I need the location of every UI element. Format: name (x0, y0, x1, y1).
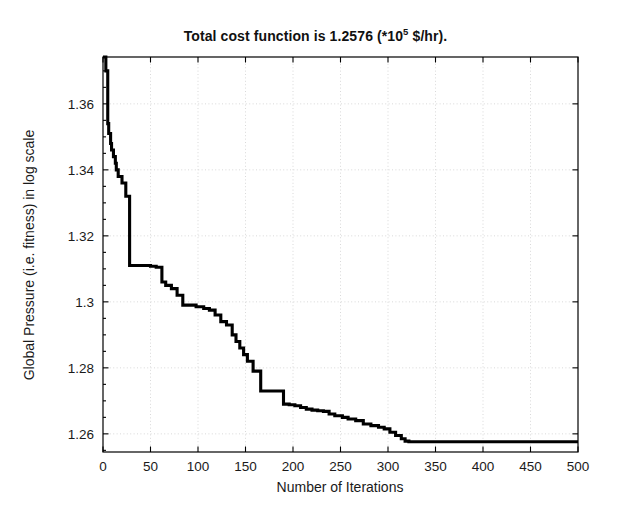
y-tick-label: 1.36 (68, 97, 94, 112)
x-tick-label: 500 (567, 459, 590, 474)
x-tick-label: 250 (329, 459, 352, 474)
y-axis-title: Global Pressure (i.e. fitness) in log sc… (21, 130, 37, 381)
x-tick-label: 150 (234, 459, 257, 474)
x-tick-label: 0 (99, 459, 107, 474)
x-tick-label: 200 (282, 459, 305, 474)
x-tick-label: 100 (187, 459, 210, 474)
y-axis-tick-labels: 1.261.281.31.321.341.36 (68, 97, 95, 442)
y-tick-label: 1.26 (68, 427, 94, 442)
x-axis-title: Number of Iterations (277, 479, 404, 495)
plot-area: 050100150200250300350400450500 1.261.281… (0, 0, 631, 514)
y-tick-label: 1.34 (68, 163, 95, 178)
gridlines (103, 57, 578, 452)
x-axis-tick-labels: 050100150200250300350400450500 (99, 459, 589, 474)
x-tick-label: 450 (519, 459, 542, 474)
x-tick-label: 300 (377, 459, 400, 474)
figure-canvas: Total cost function is 1.2576 (*105 $/hr… (0, 0, 631, 514)
x-tick-label: 350 (424, 459, 447, 474)
x-tick-label: 50 (143, 459, 158, 474)
y-tick-label: 1.28 (68, 361, 94, 376)
y-tick-label: 1.3 (75, 295, 94, 310)
x-tick-label: 400 (472, 459, 495, 474)
y-tick-label: 1.32 (68, 229, 94, 244)
